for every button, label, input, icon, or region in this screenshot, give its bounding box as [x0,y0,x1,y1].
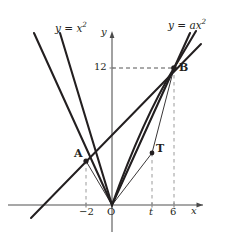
curve-label-2-exponent: 2 [202,17,207,26]
x-tick-label-t: t [149,207,153,217]
x-axis-arrowhead [197,203,204,208]
y-tick-label-12: 12 [94,62,107,72]
curve-label-1-base: y = x [55,22,82,34]
chord-OB [112,68,174,205]
curve-label-y-equals-a-x-squared: y = ax2 [168,18,206,30]
figure-canvas [0,0,227,239]
point-label-A: A [74,148,83,159]
point-label-T: T [156,143,164,154]
x-axis-label: x [191,206,197,216]
y-axis-label: y [101,27,107,37]
origin-label: O [107,207,115,217]
point-A-marker [83,158,88,163]
x-tick-label-6: 6 [170,207,176,217]
point-T-marker [150,151,155,156]
curve-label-2-base: y = ax [168,19,202,31]
math-figure: y = x2 y = ax2 y x O 12 −2 t 6 A B T [0,0,227,239]
point-label-B: B [179,62,188,73]
chord-OA [86,161,112,205]
y-axis-arrowhead [110,31,115,38]
x-tick-label-minus2: −2 [79,207,94,217]
point-B-marker [171,65,177,71]
curve-label-1-exponent: 2 [82,20,87,29]
curve-label-y-equals-x-squared: y = x2 [55,21,87,33]
